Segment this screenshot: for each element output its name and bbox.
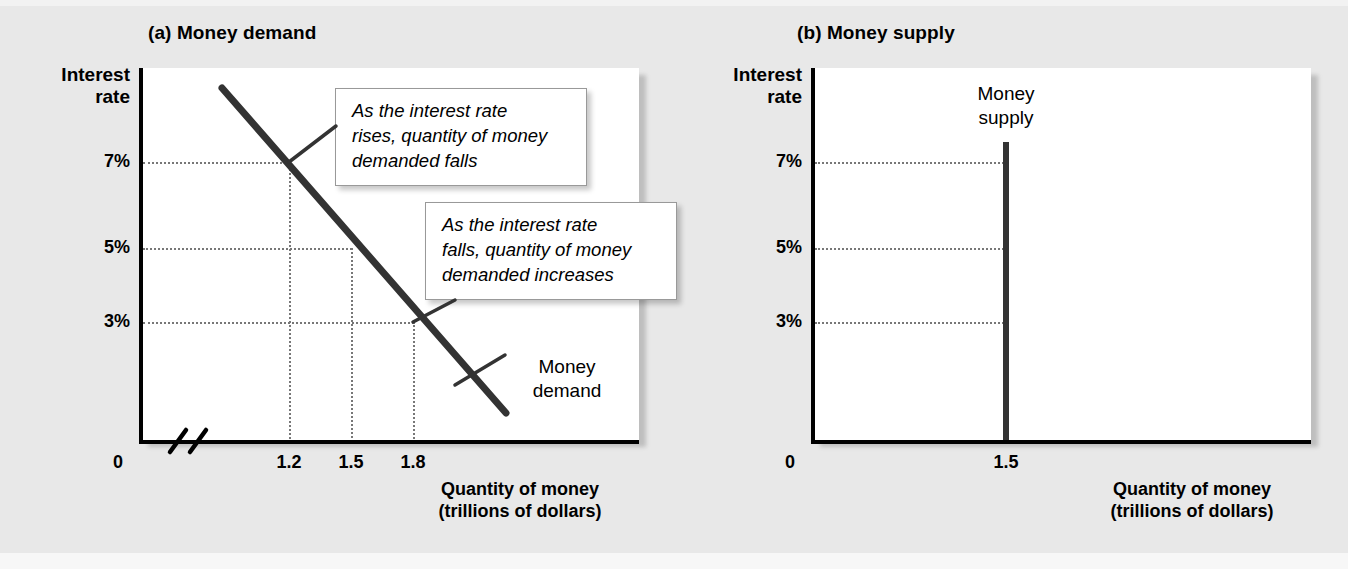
panel-b-x-axis [811,440,1311,444]
panel-a-y-axis-label-line1: Interest [8,64,130,86]
panel-b-plot-area [813,68,1311,442]
panel-a-gridline-1-8 [413,322,415,442]
panel-b-gridline-7pct [815,162,1007,164]
callout-interest-rate-rises: As the interest rate rises, quantity of … [335,88,587,186]
panel-a-x-axis-title: Quantity of money (trillions of dollars) [380,478,660,522]
callout-fall-line2: falls, quantity of money [442,237,662,262]
panel-b-ytick-5: 5% [722,237,802,258]
callout-fall-line3: demanded increases [442,262,662,287]
panel-b-y-axis-label: Interest rate [680,64,802,108]
panel-a-xtick-1-2: 1.2 [259,452,319,473]
panel-b-xtick-1-5: 1.5 [976,452,1036,473]
money-supply-curve-label: Money supply [951,82,1061,130]
money-supply-curve-label-line1: Money [951,82,1061,106]
callout-rise-line1: As the interest rate [352,98,572,123]
money-demand-curve-label: Money demand [512,355,622,403]
panel-a-y-axis-label-line2: rate [8,86,130,108]
page-edge-bottom [0,553,1348,569]
panel-a-gridline-5pct [143,248,352,250]
panel-b-y-axis [811,68,815,444]
money-supply-curve [1003,142,1009,442]
panel-b-y-axis-label-line2: rate [680,86,802,108]
panel-a-xtick-1-8: 1.8 [383,452,443,473]
panel-b-y-axis-label-line1: Interest [680,64,802,86]
panel-a-x-axis [139,440,639,444]
panel-b-x-axis-title: Quantity of money (trillions of dollars) [1052,478,1332,522]
callout-rise-line3: demanded falls [352,148,572,173]
panel-a-x-axis-title-line2: (trillions of dollars) [380,500,660,522]
figure-container: (a) Money demand Interest rate 7% 5% 3% … [0,0,1348,569]
money-demand-curve-label-line1: Money [512,355,622,379]
panel-b-ytick-3: 3% [722,311,802,332]
panel-b-title: (b) Money supply [797,22,955,44]
panel-a-ytick-7: 7% [50,151,130,172]
panel-a-gridline-7pct [143,162,290,164]
page-edge-top [0,0,1348,6]
callout-rise-line2: rises, quantity of money [352,123,572,148]
callout-interest-rate-falls: As the interest rate falls, quantity of … [425,202,677,300]
panel-a-x-axis-title-line1: Quantity of money [380,478,660,500]
panel-b-x-axis-title-line2: (trillions of dollars) [1052,500,1332,522]
panel-a-gridline-1-5 [351,248,353,442]
panel-a-gridline-1-2 [289,162,291,442]
panel-b-gridline-5pct [815,248,1007,250]
callout-fall-line1: As the interest rate [442,212,662,237]
panel-a-ytick-3: 3% [50,311,130,332]
money-demand-curve-label-line2: demand [512,379,622,403]
panel-a-y-axis-label: Interest rate [8,64,130,108]
panel-a-y-axis [139,68,143,444]
panel-b-gridline-3pct [815,322,1007,324]
panel-b-xtick-0: 0 [770,452,810,473]
panel-b-ytick-7: 7% [722,151,802,172]
panel-a-xtick-0: 0 [98,452,138,473]
panel-a-gridline-3pct [143,322,414,324]
panel-a-title: (a) Money demand [148,22,316,44]
panel-a-xtick-1-5: 1.5 [321,452,381,473]
panel-b-x-axis-title-line1: Quantity of money [1052,478,1332,500]
money-supply-curve-label-line2: supply [951,106,1061,130]
panel-a-ytick-5: 5% [50,237,130,258]
